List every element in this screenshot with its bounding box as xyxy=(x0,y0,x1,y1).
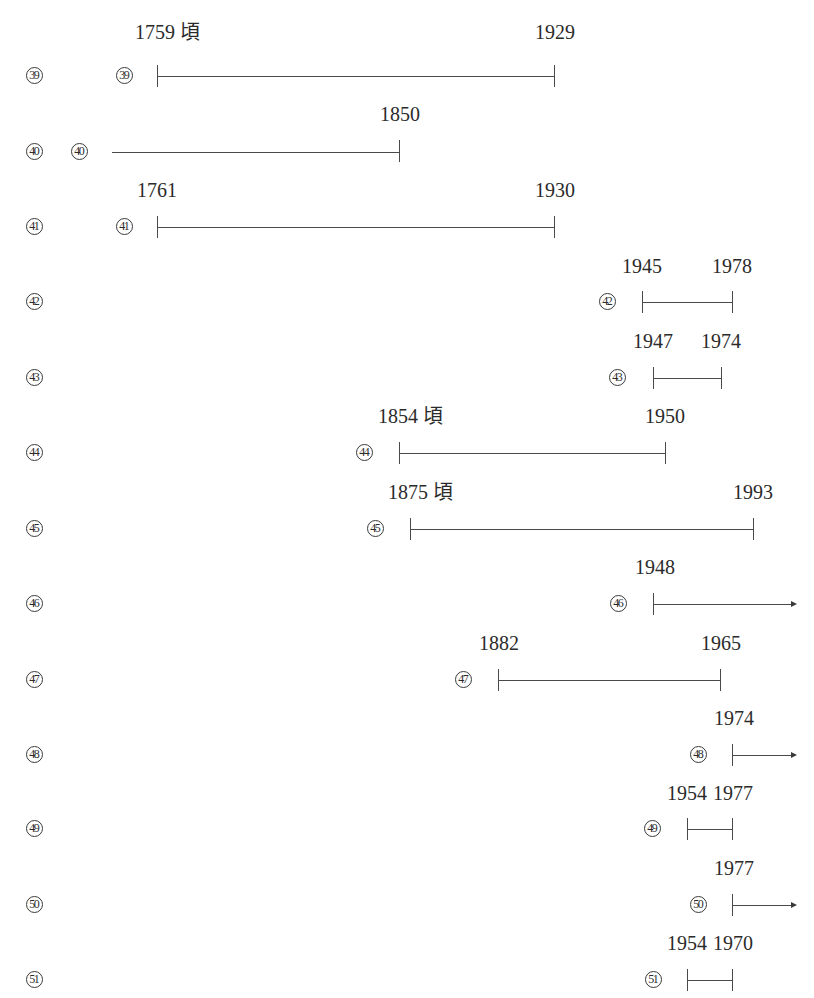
start-label: 1974 xyxy=(714,708,754,728)
row-number-marker: 41 xyxy=(116,218,133,235)
end-tick xyxy=(720,669,721,691)
lifespan-bar xyxy=(399,453,666,454)
end-tick xyxy=(554,216,555,238)
start-label: 1977 xyxy=(714,858,754,878)
row-number-left: 48 xyxy=(26,746,43,763)
end-tick xyxy=(665,442,666,464)
end-tick xyxy=(399,140,400,162)
start-label: 1948 xyxy=(635,557,675,577)
row-number-left: 41 xyxy=(26,218,43,235)
row-number-marker: 44 xyxy=(356,444,373,461)
lifespan-bar xyxy=(642,302,733,303)
row-number-marker: 43 xyxy=(609,369,626,386)
row-number-left: 45 xyxy=(26,520,43,537)
end-label: 1965 xyxy=(701,633,741,653)
lifespan-bar xyxy=(410,529,754,530)
end-label: 1978 xyxy=(712,256,752,276)
row-number-marker: 49 xyxy=(644,820,661,837)
timeline-row-51: 51 1954 1970 51 xyxy=(0,0,814,76)
row-number-left: 49 xyxy=(26,820,43,837)
start-label: 1954 xyxy=(667,783,707,803)
row-number-marker: 42 xyxy=(599,293,616,310)
row-number-marker: 47 xyxy=(455,671,472,688)
start-label: 1954 xyxy=(667,933,707,953)
start-label: 1947 xyxy=(633,331,673,351)
row-number-left: 50 xyxy=(26,896,43,913)
lifespan-bar xyxy=(732,755,791,756)
row-number-left: 51 xyxy=(26,971,43,988)
row-number-left: 47 xyxy=(26,671,43,688)
lifespan-bar xyxy=(687,980,733,981)
end-tick xyxy=(753,518,754,540)
end-label: 1950 xyxy=(645,406,685,426)
row-number-left: 43 xyxy=(26,369,43,386)
end-label: 1850 xyxy=(380,104,420,124)
row-number-marker: 48 xyxy=(690,746,707,763)
start-label: 1945 xyxy=(622,256,662,276)
row-number-left: 40 xyxy=(26,143,43,160)
row-number-marker: 40 xyxy=(71,143,88,160)
end-label: 1970 xyxy=(713,933,753,953)
lifespan-bar xyxy=(653,378,722,379)
ongoing-arrow-icon xyxy=(791,902,797,908)
end-label: 1930 xyxy=(535,180,575,200)
end-tick xyxy=(732,818,733,840)
row-number-left: 44 xyxy=(26,444,43,461)
ongoing-arrow-icon xyxy=(791,752,797,758)
end-tick xyxy=(732,969,733,991)
start-label: 1875 頃 xyxy=(388,482,453,502)
end-label: 1993 xyxy=(733,482,773,502)
end-label: 1977 xyxy=(713,783,753,803)
end-tick xyxy=(732,291,733,313)
lifespan-bar xyxy=(653,604,791,605)
lifespan-bar xyxy=(112,152,400,153)
end-label: 1974 xyxy=(701,331,741,351)
row-number-marker: 51 xyxy=(645,971,662,988)
row-number-left: 42 xyxy=(26,293,43,310)
lifespan-bar xyxy=(157,76,555,77)
row-number-marker: 46 xyxy=(610,595,627,612)
start-label: 1854 頃 xyxy=(378,406,443,426)
start-label: 1761 xyxy=(137,180,177,200)
lifespan-bar xyxy=(157,227,555,228)
start-label: 1882 xyxy=(479,633,519,653)
row-number-left: 46 xyxy=(26,595,43,612)
timeline-diagram: 39 1759 頃 1929 39 40 1850 40 41 1761 193… xyxy=(0,0,814,998)
ongoing-arrow-icon xyxy=(791,601,797,607)
row-number-marker: 50 xyxy=(690,896,707,913)
end-tick xyxy=(721,367,722,389)
lifespan-bar xyxy=(732,905,791,906)
lifespan-bar xyxy=(498,680,721,681)
row-number-marker: 45 xyxy=(367,520,384,537)
lifespan-bar xyxy=(687,829,733,830)
